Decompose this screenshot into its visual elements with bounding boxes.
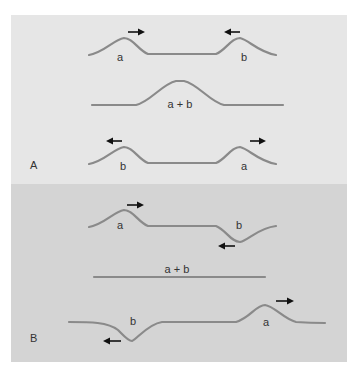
arrow-right-icon — [127, 202, 144, 209]
arrow-left-icon — [106, 138, 122, 145]
arrow-left-icon — [218, 243, 235, 250]
panel-b-label: B — [30, 332, 37, 344]
panel-a-row3-label-b: b — [120, 160, 126, 172]
panel-b-row1-label-a: a — [117, 219, 124, 231]
panel-b-row3-wave — [69, 305, 325, 341]
panel-a-row1-label-b: b — [241, 51, 247, 63]
panel-a-label: A — [30, 159, 38, 171]
panel-a-sum-label: a + b — [168, 98, 193, 110]
panel-a-row3-label-a: a — [241, 160, 248, 172]
arrow-right-icon — [276, 298, 294, 305]
arrow-right-icon — [128, 29, 145, 36]
panel-a-row1-label-a: a — [117, 51, 124, 63]
arrow-left-icon — [103, 338, 121, 345]
panel-b-row1-label-b: b — [236, 219, 242, 231]
panel-b-row3-label-a: a — [263, 316, 270, 328]
panel-b-row3-label-b: b — [130, 315, 136, 327]
wave-superposition-diagram: a b a + b b a A a b a + b b a B — [0, 0, 358, 372]
arrow-right-icon — [250, 138, 266, 145]
panel-b-sum-label: a + b — [165, 263, 190, 275]
arrow-left-icon — [224, 29, 240, 36]
panel-a-row3-wave — [89, 147, 276, 164]
